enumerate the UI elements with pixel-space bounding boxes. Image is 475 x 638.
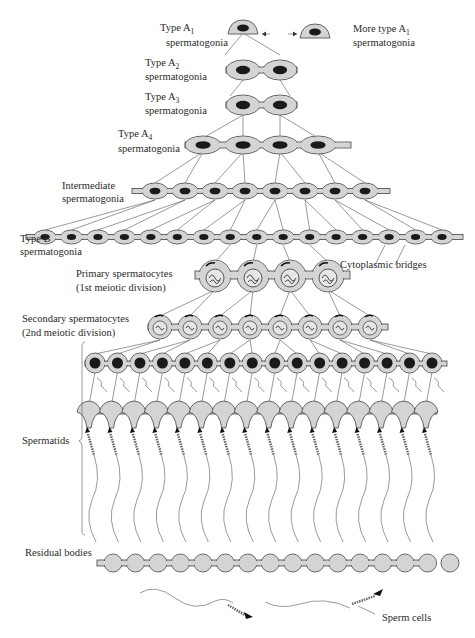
tail	[336, 455, 345, 542]
midpiece	[178, 434, 184, 455]
lineage-line	[179, 372, 185, 405]
lineage-line	[220, 290, 253, 316]
nucleus	[247, 358, 258, 369]
residual-fill	[374, 555, 390, 571]
label-primary-line2: (1st meiotic division)	[76, 282, 166, 294]
nucleus	[93, 234, 102, 240]
lineage-line	[246, 372, 252, 405]
nucleus	[179, 358, 190, 369]
lineage-line	[280, 152, 305, 183]
residual-fill	[262, 555, 278, 571]
lineage-line	[124, 200, 185, 230]
lineage-line	[140, 340, 190, 354]
flagellum	[187, 378, 197, 392]
label-secondary: Secondary spermatocytes	[22, 313, 129, 324]
nucleus	[235, 141, 250, 149]
tail	[111, 455, 120, 542]
nucleus	[279, 234, 288, 240]
nucleus	[236, 66, 250, 74]
nucleus	[146, 234, 155, 240]
lineage-line	[310, 245, 328, 262]
nucleus	[358, 234, 367, 240]
flagellum	[299, 378, 309, 392]
tail	[156, 455, 165, 542]
flagellum	[209, 378, 219, 392]
nucleus	[309, 29, 321, 36]
nucleus	[157, 358, 168, 369]
nucleus	[359, 358, 370, 369]
midpiece	[223, 434, 229, 455]
label-type-a1-line2: spermatogonia	[166, 37, 228, 48]
label-type-a1: Type A1	[160, 22, 194, 36]
lineage-line	[305, 200, 310, 230]
sperm-tail	[265, 601, 350, 608]
elongating-spermatid	[392, 401, 416, 428]
lineage-line	[275, 340, 280, 354]
midpiece	[358, 434, 364, 455]
nucleus	[292, 358, 303, 369]
lineage-line	[381, 372, 387, 405]
lineage-line	[204, 200, 245, 230]
lineage-line	[230, 200, 245, 230]
lineage-line	[230, 80, 243, 96]
label-intermediate: Intermediate	[62, 180, 115, 191]
sperm-head	[244, 612, 253, 619]
lineage-line	[335, 200, 363, 230]
residual-fill	[172, 555, 188, 571]
nucleus	[67, 234, 76, 240]
lineage-line	[185, 152, 203, 183]
arrow-left-icon	[262, 32, 266, 37]
lineage-line	[335, 200, 389, 230]
flagellum	[232, 378, 242, 392]
lineage-line	[370, 340, 410, 354]
elongating-spermatid	[369, 401, 393, 428]
nucleus	[360, 188, 371, 195]
elongating-spermatid	[347, 401, 371, 428]
sperm-midpiece	[228, 605, 245, 615]
elongating-spermatid	[257, 401, 281, 428]
lineage-line	[426, 372, 432, 405]
nucleus	[120, 234, 129, 240]
nucleus	[202, 358, 213, 369]
sperm-tail	[140, 589, 233, 606]
lineage-line	[404, 372, 410, 405]
tail	[269, 455, 278, 542]
nucleus	[273, 101, 287, 109]
label-secondary-line2: (2nd meiotic division)	[22, 327, 116, 339]
elongating-spermatid	[279, 401, 303, 428]
label-type-a2: Type A2	[145, 57, 179, 71]
label-intermediate-line2: spermatogonia	[62, 193, 124, 204]
nucleus	[134, 358, 145, 369]
lineage-line	[156, 372, 162, 405]
lineage-line	[336, 372, 342, 405]
lineage-line	[215, 152, 243, 183]
nucleus	[224, 358, 235, 369]
nucleus	[310, 141, 325, 149]
lineage-line	[160, 290, 215, 316]
residual-fill	[442, 555, 458, 571]
lineage-line	[275, 152, 280, 183]
lineage-line	[117, 340, 160, 354]
nucleus	[305, 234, 314, 240]
lineage-line	[318, 152, 335, 183]
label-spermatids: Spermatids	[22, 435, 69, 446]
residual-fill	[195, 555, 211, 571]
midpiece	[290, 434, 296, 455]
residual-fill	[150, 555, 166, 571]
midpiece	[200, 434, 206, 455]
lineage-line	[283, 245, 290, 262]
tail	[224, 455, 233, 542]
lineage-line	[215, 245, 230, 262]
lineage-line	[243, 33, 280, 55]
label-residual-bodies: Residual bodies	[25, 547, 92, 558]
nucleus	[382, 358, 393, 369]
residual-fill	[217, 555, 233, 571]
flagellum	[254, 378, 264, 392]
lineage-line	[365, 200, 442, 230]
elongating-spermatid	[144, 401, 168, 428]
lineage-line	[305, 200, 336, 230]
tail	[426, 455, 435, 542]
tail	[201, 455, 210, 542]
label-type-b-line2: spermatogonia	[20, 246, 82, 257]
lineage-line	[155, 152, 203, 183]
